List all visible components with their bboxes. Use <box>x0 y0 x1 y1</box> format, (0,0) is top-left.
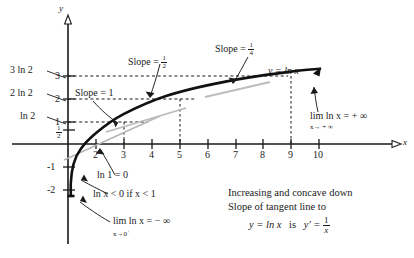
slope-half-prefix: Slope = <box>128 56 159 67</box>
x-tick-5: 5 <box>177 150 182 160</box>
summary-fraction-denominator: x <box>323 226 330 235</box>
y-half-denominator: 2 <box>56 133 62 140</box>
y-tick-2: 2 <box>55 94 60 104</box>
y-tick-neg-1: -1 <box>47 162 55 172</box>
horizontal-guide-lines <box>68 76 288 122</box>
x-tick-2: 2 <box>93 150 98 160</box>
label-2ln2: 2 ln 2 <box>10 88 33 98</box>
label-ln2: ln 2 <box>20 111 35 121</box>
x-tick-3: 3 <box>121 150 126 160</box>
x-axis-arrow <box>392 141 401 148</box>
annotation-limit-zero-sub: x→0+ <box>113 229 130 238</box>
head-limit-infinity <box>311 87 319 94</box>
slope-half-denominator: 2 <box>161 63 167 70</box>
annotation-limit-infinity: lim ln x = + ∞ <box>310 111 367 121</box>
limit-zero-sub-plus: + <box>127 229 130 234</box>
slope-1-prefix: Slope = <box>75 87 106 98</box>
x-tick-9: 9 <box>288 150 293 160</box>
arrow-limit-zero <box>80 202 110 222</box>
head-slope-half <box>146 92 155 99</box>
summary-equation-is: is <box>284 219 301 230</box>
summary-line-1: Increasing and concave down <box>228 186 353 200</box>
y-axis-ticks <box>63 76 75 190</box>
y-tick-3: 3 <box>55 71 60 81</box>
slope-quarter-denominator: 4 <box>248 50 254 57</box>
slope-quarter-prefix: Slope = <box>215 43 246 54</box>
annotation-arrowheads <box>80 78 318 204</box>
head-limit-zero <box>80 196 87 204</box>
slope-label-half: Slope = 1 2 <box>128 55 167 71</box>
label-3ln2: 3 ln 2 <box>10 65 33 75</box>
x-tick-6: 6 <box>205 150 210 160</box>
x-tick-8: 8 <box>260 150 265 160</box>
summary-line-3: y = ln x is y′ = 1 x <box>249 216 330 236</box>
annotation-limit-zero: lim ln x = − ∞ <box>113 216 170 226</box>
slope-label-1: Slope = 1 <box>75 88 113 98</box>
summary-line-2: Slope of tangent line to <box>228 200 326 214</box>
curve-label: y = ln x <box>268 66 299 76</box>
x-tick-7: 7 <box>233 150 238 160</box>
summary-equation-lhs: y = ln x <box>249 219 281 230</box>
limit-zero-sub-text: x→0 <box>113 230 127 238</box>
y-axis-arrow <box>65 15 72 24</box>
annotation-limit-infinity-sub: x→ + ∞ <box>310 124 333 131</box>
annotation-negative-region: ln x < 0 if x < 1 <box>93 189 156 199</box>
x-tick-4: 4 <box>149 150 154 160</box>
slope-1-value: 1 <box>108 87 113 98</box>
ln-x-graph-figure <box>0 0 414 258</box>
y-tick-one-half: 1 2 <box>56 124 62 141</box>
annotation-ln-one: ln 1 = 0 <box>97 170 128 180</box>
y-tick-neg-2: -2 <box>47 185 55 195</box>
tangent-line-at-2 <box>106 108 186 132</box>
y-axis-label: y <box>59 4 63 13</box>
x-axis-label: x <box>403 138 407 147</box>
x-tick-10: 10 <box>313 150 323 160</box>
slope-label-quarter: Slope = 1 4 <box>215 42 254 58</box>
summary-equation-rhs: y′ = <box>304 219 321 230</box>
